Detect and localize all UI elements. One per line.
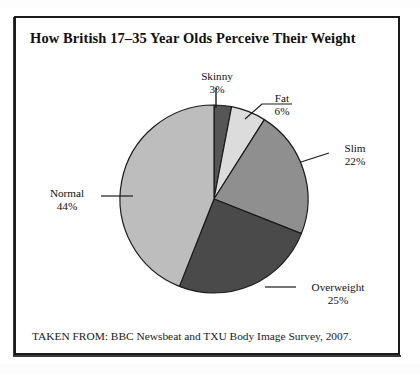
scan-edge-bottom [0,364,420,374]
chart-title: How British 17–35 Year Olds Perceive The… [30,30,356,47]
pie-label-overweight-value: 25% [296,294,380,307]
pie-label-fat-name: Fat [262,92,302,105]
pie-label-overweight-name: Overweight [296,281,380,294]
pie-label-overweight: Overweight 25% [296,281,380,306]
pie-label-slim-name: Slim [332,142,378,155]
figure-page: How British 17–35 Year Olds Perceive The… [0,0,420,374]
pie-label-fat-value: 6% [262,105,302,118]
frame-edge-bottom [14,355,401,357]
pie-label-normal: Normal 44% [36,187,98,212]
pie-label-normal-name: Normal [36,187,98,200]
pie-label-slim-value: 22% [332,155,378,168]
chart-source-caption: TAKEN FROM: BBC Newsbeat and TXU Body Im… [32,330,351,342]
pie-label-skinny-name: Skinny [186,70,248,83]
pie-label-fat: Fat 6% [262,92,302,117]
pie-label-skinny: Skinny 3% [186,70,248,95]
pie-label-slim: Slim 22% [332,142,378,167]
pie-label-normal-value: 44% [36,200,98,213]
pie-label-skinny-value: 3% [186,83,248,96]
scan-edge-top [0,0,420,8]
